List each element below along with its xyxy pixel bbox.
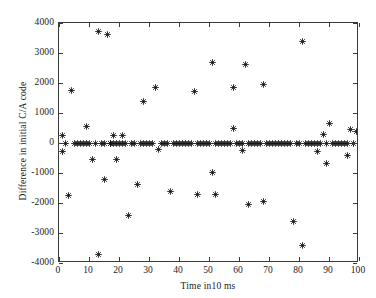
x-axis-title: Time in10 ms [58,281,358,291]
data-point [119,132,126,139]
y-axis-tick [59,203,63,204]
x-axis-tick [89,257,90,261]
data-point [161,140,168,147]
data-point [110,132,117,139]
data-point [125,212,132,219]
data-point [59,132,66,139]
data-point [176,140,183,147]
data-point [173,140,180,147]
data-point [104,31,111,38]
y-axis-tick-right [353,143,357,144]
data-point [191,88,198,95]
data-point [209,59,216,66]
data-point [278,140,285,147]
data-point [101,176,108,183]
data-point [170,140,177,147]
x-axis-tick-top [359,23,360,27]
data-point [227,140,234,147]
data-point [137,140,144,147]
data-point [314,148,321,155]
y-axis-tick [59,83,63,84]
data-point [89,156,96,163]
x-axis-tick [149,257,150,261]
data-point [140,98,147,105]
data-point [287,140,294,147]
data-point [326,120,333,127]
data-point [332,140,339,147]
data-point [302,140,309,147]
x-axis-tick [119,257,120,261]
data-point [230,84,237,91]
data-point [344,140,351,147]
data-point [203,140,210,147]
data-point [263,140,270,147]
y-axis-tick-right [353,233,357,234]
y-axis-tick-label: 1000 [0,108,54,118]
data-point [188,140,195,147]
x-axis-tick-top [329,23,330,27]
y-axis-tick-right [353,263,357,264]
x-axis-tick [269,257,270,261]
y-axis-tick [59,233,63,234]
data-point [110,140,117,147]
data-point [122,140,129,147]
y-axis-tick-right [353,203,357,204]
y-axis-tick [59,263,63,264]
y-axis-tick [59,53,63,54]
data-point [107,140,114,147]
y-axis-tick-right [353,23,357,24]
y-axis-tick-label: 4000 [0,18,54,28]
data-point [167,188,174,195]
y-axis-tick [59,173,63,174]
y-axis-tick-right [353,113,357,114]
x-axis-tick-top [89,23,90,27]
data-point [338,140,345,147]
data-point [83,123,90,130]
data-point [245,201,252,208]
data-point [95,28,102,35]
y-axis-tick-label: 0 [0,138,54,148]
data-point [131,140,138,147]
data-point [344,152,351,159]
data-point [299,242,306,249]
data-point [317,140,324,147]
data-point [68,87,75,94]
data-point [140,140,147,147]
data-point [323,160,330,167]
data-point [260,81,267,88]
data-point [74,140,81,147]
y-axis-tick-label: -3000 [0,228,54,238]
x-axis-tick-top [239,23,240,27]
y-axis-tick-label: 2000 [0,78,54,88]
data-point [113,140,120,147]
y-axis-tick-right [353,53,357,54]
data-point [290,218,297,225]
data-points-layer [59,23,357,261]
data-point [221,140,228,147]
data-point [311,140,318,147]
x-axis-tick [179,257,180,261]
x-axis-tick-top [179,23,180,27]
data-point [236,140,243,147]
data-point [266,140,273,147]
data-point [218,140,225,147]
data-point [95,251,102,258]
data-point [80,140,87,147]
x-axis-tick-top [269,23,270,27]
data-point [164,140,171,147]
data-point [305,140,312,147]
data-point [86,140,93,147]
data-point [329,140,336,147]
data-point [65,192,72,199]
data-point [239,147,246,154]
data-point [92,140,99,147]
data-point [212,191,219,198]
scatter-plot-figure: Difference in initial C/A code -4000-300… [0,0,376,298]
data-point [77,140,84,147]
data-point [98,140,105,147]
data-point [185,140,192,147]
data-point [347,126,354,133]
data-point [101,140,108,147]
x-axis-tick-top [59,23,60,27]
data-point [296,140,303,147]
